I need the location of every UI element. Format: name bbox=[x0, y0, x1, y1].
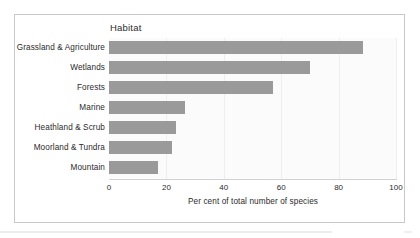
category-label: Heathland & Scrub bbox=[1, 121, 105, 134]
page-footer-rule bbox=[0, 231, 332, 233]
x-tick-label: 60 bbox=[277, 183, 286, 192]
plot-area: Grassland & AgricultureWetlandsForestsMa… bbox=[109, 38, 396, 179]
bar-row: Grassland & Agriculture bbox=[109, 38, 396, 58]
chart-title: Habitat bbox=[110, 22, 142, 33]
bar bbox=[109, 41, 363, 54]
category-label: Marine bbox=[1, 101, 105, 114]
bar bbox=[109, 121, 176, 134]
x-axis-label: Per cent of total number of species bbox=[109, 197, 397, 206]
x-axis-line bbox=[109, 179, 397, 180]
page-corner-mark bbox=[404, 231, 412, 233]
x-tick-label: 100 bbox=[389, 183, 402, 192]
chart-figure: Habitat Grassland & AgricultureWetlandsF… bbox=[0, 0, 420, 238]
gridline bbox=[396, 38, 397, 179]
bar-row: Mountain bbox=[109, 158, 396, 178]
bar bbox=[109, 81, 273, 94]
bar bbox=[109, 141, 172, 154]
category-label: Wetlands bbox=[1, 61, 105, 74]
bar-row: Forests bbox=[109, 78, 396, 98]
bar-row: Moorland & Tundra bbox=[109, 138, 396, 158]
category-label: Grassland & Agriculture bbox=[1, 41, 105, 54]
bar-row: Marine bbox=[109, 98, 396, 118]
x-tick-label: 40 bbox=[219, 183, 228, 192]
bar-row: Heathland & Scrub bbox=[109, 118, 396, 138]
bar bbox=[109, 61, 310, 74]
bar-row: Wetlands bbox=[109, 58, 396, 78]
bar bbox=[109, 101, 185, 114]
category-label: Forests bbox=[1, 81, 105, 94]
category-label: Mountain bbox=[1, 161, 105, 174]
category-label: Moorland & Tundra bbox=[1, 141, 105, 154]
bar bbox=[109, 161, 158, 174]
x-tick-label: 20 bbox=[162, 183, 171, 192]
x-tick-label: 0 bbox=[107, 183, 111, 192]
x-tick-label: 80 bbox=[334, 183, 343, 192]
